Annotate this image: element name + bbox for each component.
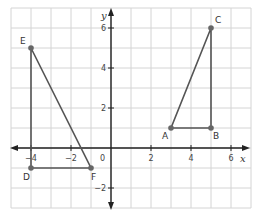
y-tick-label: 4 (101, 64, 106, 73)
grid (11, 8, 251, 208)
point-a (168, 125, 174, 131)
point-label-c: C (215, 15, 221, 25)
coordinate-plane: x y 0 −4−2246 642−2 ABCDEF (0, 0, 262, 217)
y-axis-label: y (100, 10, 107, 21)
y-axis-up-arrow-icon (108, 8, 114, 16)
x-axis-right-arrow-icon (242, 145, 250, 151)
point-label-b: B (213, 131, 219, 141)
x-axis-label: x (240, 153, 246, 164)
x-tick-label: 2 (148, 154, 153, 163)
origin-label: 0 (100, 154, 105, 163)
point-label-d: D (23, 172, 30, 182)
point-label-f: F (91, 172, 96, 182)
point-label-e: E (20, 36, 26, 46)
y-tick-label: −2 (94, 184, 106, 193)
point-f (88, 165, 94, 171)
point-d (28, 165, 34, 171)
y-tick-label: 6 (101, 24, 106, 33)
triangles (31, 28, 211, 168)
point-b (208, 125, 214, 131)
point-label-a: A (162, 131, 169, 141)
y-axis-down-arrow-icon (108, 202, 114, 210)
axes: x y 0 −4−2246 642−2 (10, 8, 250, 210)
x-tick-label: 4 (188, 154, 193, 163)
x-tick-label: 6 (228, 154, 233, 163)
point-c (208, 25, 214, 31)
x-tick-label: −2 (65, 154, 77, 163)
point-e (28, 45, 34, 51)
y-tick-label: 2 (101, 104, 106, 113)
